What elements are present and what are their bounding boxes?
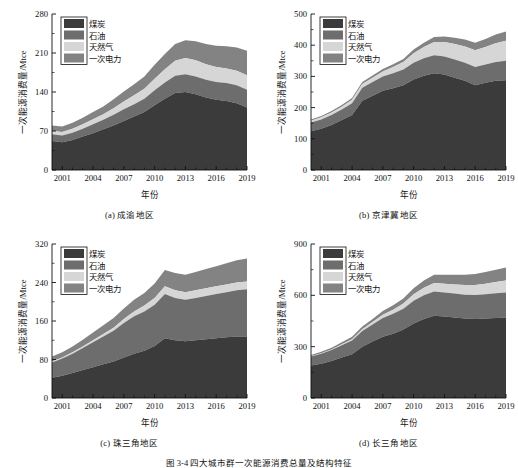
legend: 煤炭石油天然气一次电力: [320, 17, 380, 65]
legend-swatch-石油: [64, 261, 84, 270]
x-axis-title: 年份: [141, 189, 159, 200]
x-tick-label: 2010: [405, 173, 422, 183]
x-tick-label: 2016: [208, 401, 226, 411]
y-tick-label: 400: [294, 40, 307, 50]
legend: 煤炭石油天然气一次电力: [61, 247, 121, 295]
subplot-a-caption: (a) 成渝地区: [0, 208, 259, 220]
legend-label-煤炭: 煤炭: [348, 249, 365, 259]
legend-swatch-一次电力: [64, 54, 84, 63]
x-tick-label: 2004: [84, 401, 102, 411]
chart-d-svg: 03006009002001200420072010201320162019年份…: [259, 232, 518, 465]
subplot-c: 0801602403202001200420072010201320162019…: [0, 232, 259, 465]
legend-swatch-石油: [323, 31, 343, 40]
y-tick-label: 70: [39, 126, 48, 136]
y-axis-title: 一次能源消费量/Mtce: [17, 50, 28, 133]
y-tick-label: 240: [35, 278, 48, 288]
legend-label-天然气: 天然气: [89, 42, 114, 52]
y-tick-label: 0: [44, 393, 48, 403]
x-tick-label: 2007: [115, 401, 133, 411]
y-tick-label: 280: [35, 9, 48, 19]
legend-label-一次电力: 一次电力: [348, 54, 380, 64]
y-axis-title: 一次能源消费量/Mtce: [276, 279, 287, 362]
subplot-a: 0701402102802001200420072010201320162019…: [0, 0, 259, 232]
y-tick-label: 100: [294, 134, 307, 144]
x-tick-label: 2004: [84, 173, 102, 183]
x-axis-title: 年份: [400, 189, 418, 200]
legend-swatch-天然气: [323, 42, 343, 51]
x-tick-label: 2019: [238, 173, 255, 183]
x-tick-label: 2001: [54, 173, 71, 183]
legend-label-天然气: 天然气: [348, 272, 373, 282]
x-tick-label: 2013: [177, 401, 194, 411]
y-tick-label: 80: [39, 355, 48, 365]
y-tick-label: 200: [294, 103, 307, 113]
chart-c-svg: 0801602403202001200420072010201320162019…: [0, 232, 259, 465]
y-tick-label: 160: [35, 316, 48, 326]
x-tick-label: 2001: [54, 401, 71, 411]
legend-label-一次电力: 一次电力: [89, 54, 121, 64]
legend-swatch-煤炭: [64, 19, 84, 28]
legend-swatch-天然气: [64, 272, 84, 281]
subplot-d-caption: (d) 长三角地区: [259, 436, 518, 448]
legend-label-天然气: 天然气: [348, 42, 373, 52]
legend-label-天然气: 天然气: [89, 272, 114, 282]
subplot-d: 03006009002001200420072010201320162019年份…: [259, 232, 518, 465]
y-tick-label: 0: [303, 165, 307, 175]
legend-label-石油: 石油: [348, 261, 364, 271]
legend: 煤炭石油天然气一次电力: [320, 247, 380, 295]
legend-swatch-煤炭: [64, 249, 84, 258]
legend-label-石油: 石油: [348, 31, 364, 41]
x-tick-label: 2004: [343, 173, 361, 183]
x-tick-label: 2010: [146, 173, 163, 183]
chart-b-svg: 0100200300400500200120042007201020132016…: [259, 0, 518, 232]
y-tick-label: 900: [294, 239, 307, 249]
chart-a-svg: 0701402102802001200420072010201320162019…: [0, 0, 259, 232]
subplot-b: 0100200300400500200120042007201020132016…: [259, 0, 518, 232]
figure-caption: 图 3-4 四大城市群一次能源消费总量及结构特征: [0, 456, 518, 468]
subplot-c-caption: (c) 珠三角地区: [0, 436, 259, 448]
legend-label-一次电力: 一次电力: [89, 284, 121, 294]
legend-swatch-煤炭: [323, 19, 343, 28]
x-tick-label: 2019: [497, 401, 514, 411]
x-tick-label: 2004: [343, 401, 361, 411]
x-tick-label: 2013: [436, 173, 453, 183]
x-tick-label: 2007: [115, 173, 133, 183]
x-tick-label: 2001: [313, 173, 330, 183]
x-tick-label: 2007: [374, 173, 392, 183]
y-tick-label: 600: [294, 290, 307, 300]
y-tick-label: 300: [294, 342, 307, 352]
y-axis-title: 一次能源消费量/Mtce: [276, 50, 287, 133]
legend-label-煤炭: 煤炭: [348, 19, 365, 29]
y-tick-label: 0: [303, 393, 307, 403]
x-tick-label: 2019: [497, 173, 514, 183]
y-tick-label: 140: [35, 87, 48, 97]
legend-label-石油: 石油: [89, 261, 105, 271]
legend-swatch-天然气: [323, 272, 343, 281]
x-tick-label: 2010: [405, 401, 422, 411]
x-tick-label: 2007: [374, 401, 392, 411]
legend-label-石油: 石油: [89, 31, 105, 41]
legend-swatch-一次电力: [323, 54, 343, 63]
legend-swatch-石油: [64, 31, 84, 40]
y-tick-label: 300: [294, 71, 307, 81]
y-axis-title: 一次能源消费量/Mtce: [17, 279, 28, 362]
x-tick-label: 2010: [146, 401, 163, 411]
x-tick-label: 2013: [177, 173, 194, 183]
y-tick-label: 210: [35, 48, 48, 58]
legend-label-煤炭: 煤炭: [89, 19, 106, 29]
area-series-煤炭: [311, 73, 506, 170]
x-tick-label: 2013: [436, 401, 453, 411]
legend-swatch-煤炭: [323, 249, 343, 258]
y-tick-label: 0: [44, 165, 48, 175]
legend-label-煤炭: 煤炭: [89, 249, 106, 259]
x-tick-label: 2019: [238, 401, 255, 411]
x-axis-title: 年份: [141, 417, 159, 428]
x-axis-title: 年份: [400, 417, 418, 428]
legend-swatch-一次电力: [323, 284, 343, 293]
x-tick-label: 2016: [467, 401, 485, 411]
subplot-b-caption: (b) 京津冀地区: [259, 208, 518, 220]
legend-swatch-石油: [323, 261, 343, 270]
legend-label-一次电力: 一次电力: [348, 284, 380, 294]
legend-swatch-一次电力: [64, 284, 84, 293]
x-tick-label: 2016: [208, 173, 226, 183]
